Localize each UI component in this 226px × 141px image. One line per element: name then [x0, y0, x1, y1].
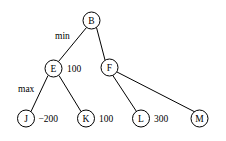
- tree-node-e[interactable]: E: [45, 60, 62, 77]
- tree-node-j[interactable]: J: [18, 110, 35, 127]
- tree-node-m[interactable]: M: [191, 110, 208, 127]
- node-label-l: L: [138, 114, 144, 124]
- node-value-label-l: 300: [154, 114, 169, 124]
- node-label-f: F: [107, 63, 112, 73]
- node-value-label-e: 100: [67, 64, 82, 74]
- tree-edge-e-k: [59, 76, 81, 112]
- tree-node-b[interactable]: B: [83, 12, 100, 29]
- tree-node-l[interactable]: L: [133, 110, 150, 127]
- node-label-k: K: [83, 114, 90, 124]
- level-role-label-max: max: [18, 84, 35, 94]
- tree-node-f[interactable]: F: [101, 59, 118, 76]
- nodes-group: BEFJKLM: [18, 12, 209, 127]
- tree-edge-b-f: [97, 28, 106, 61]
- tree-edge-f-m: [117, 72, 195, 112]
- game-tree-diagram: BEFJKLM 100−200100300 minmax: [0, 0, 226, 141]
- level-role-label-min: min: [55, 31, 70, 41]
- node-value-label-k: 100: [99, 114, 114, 124]
- node-label-m: M: [195, 114, 204, 124]
- node-label-j: J: [24, 114, 28, 124]
- node-label-e: E: [51, 64, 57, 74]
- tree-node-k[interactable]: K: [78, 110, 95, 127]
- tree-svg-canvas: BEFJKLM 100−200100300 minmax: [0, 0, 226, 141]
- node-label-b: B: [88, 16, 94, 26]
- node-value-label-j: −200: [39, 114, 59, 124]
